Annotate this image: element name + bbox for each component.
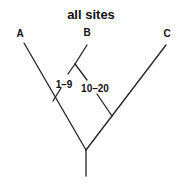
branch-a (24, 43, 86, 150)
branch-10-20-upper (75, 64, 87, 80)
branch-b (75, 45, 87, 64)
branch-label-10-20: 10–20 (81, 83, 109, 94)
branch-label-1-9: 1–9 (56, 79, 73, 90)
taxon-label-b: B (83, 27, 90, 38)
taxon-label-c: C (163, 28, 170, 39)
branch-10-20-lower (97, 94, 112, 116)
tree-diagram: all sites A B C 1–9 10–20 (0, 0, 182, 186)
taxon-label-a: A (16, 28, 23, 39)
branch-1-9-upper (68, 64, 75, 74)
diagram-title: all sites (67, 7, 115, 22)
branch-c (86, 45, 166, 150)
